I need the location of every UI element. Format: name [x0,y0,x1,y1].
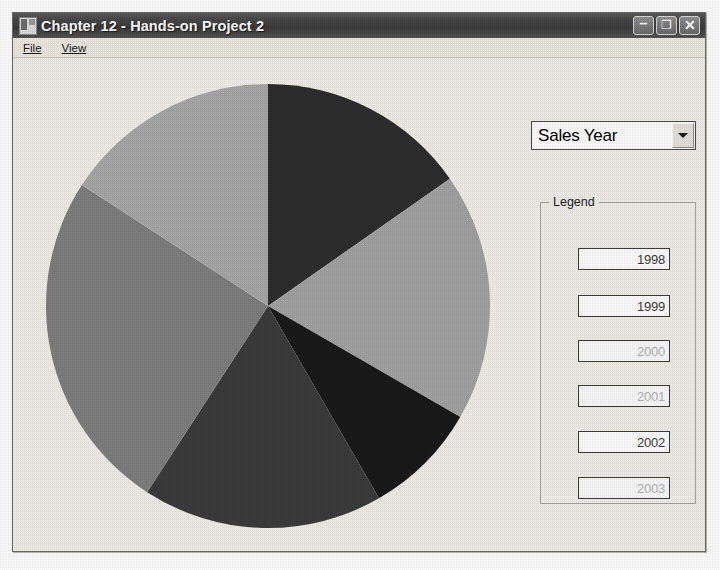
pie-chart[interactable] [43,81,493,531]
legend-textbox-2001[interactable]: 2001 [578,385,670,407]
application-window: Chapter 12 - Hands-on Project 2 – ❐ ✕ Fi… [12,12,706,552]
legend-textbox-2003[interactable]: 2003 [578,477,670,499]
minimize-icon: – [634,17,653,34]
maximize-icon: ❐ [657,17,676,34]
legend-textbox-1999[interactable]: 1999 [578,295,670,317]
window-controls: – ❐ ✕ [633,16,702,35]
menu-item-view-label: View [62,42,87,54]
legend-textbox-1998[interactable]: 1998 [578,248,670,270]
sales-year-selected-value: Sales Year [532,126,672,146]
legend-value-1998: 1998 [637,252,669,267]
maximize-button[interactable]: ❐ [656,16,677,35]
title-bar[interactable]: Chapter 12 - Hands-on Project 2 – ❐ ✕ [13,13,705,38]
legend-value-1999: 1999 [637,299,669,314]
menu-item-view[interactable]: View [60,41,97,55]
minimize-button[interactable]: – [633,16,654,35]
pie-chart-svg [43,81,493,531]
close-button[interactable]: ✕ [679,16,700,35]
window-title: Chapter 12 - Hands-on Project 2 [41,18,264,34]
legend-groupbox: Legend 1998 1999 2000 2001 2002 2003 [540,202,696,504]
menu-item-file-label: File [23,42,42,54]
chevron-down-icon[interactable] [672,123,694,148]
legend-caption: Legend [549,195,599,209]
legend-value-2003: 2003 [637,481,669,496]
form-client-area: Sales Year Legend 1998 1999 2000 2001 20… [13,59,705,551]
legend-value-2000: 2000 [637,344,669,359]
legend-textbox-2002[interactable]: 2002 [578,431,670,453]
sales-year-combobox[interactable]: Sales Year [531,121,696,150]
legend-value-2001: 2001 [637,389,669,404]
menu-item-file[interactable]: File [21,41,52,55]
legend-value-2002: 2002 [637,435,669,450]
chevron-down-glyph [678,133,688,138]
form-window-icon [19,17,37,35]
legend-textbox-2000[interactable]: 2000 [578,340,670,362]
pie-slice-group [46,84,490,528]
close-icon: ✕ [680,17,699,34]
menu-bar: File View [13,38,705,58]
